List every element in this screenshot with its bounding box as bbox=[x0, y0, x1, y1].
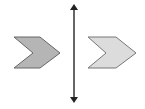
reflection-diagram bbox=[0, 0, 145, 109]
diagram-svg bbox=[0, 0, 145, 109]
original-chevron-shape bbox=[14, 37, 60, 68]
reflected-chevron-shape bbox=[88, 37, 136, 68]
